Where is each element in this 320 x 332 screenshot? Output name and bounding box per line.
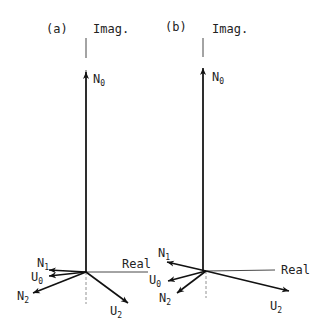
panel-b-real-axis	[206, 270, 275, 271]
panel-b: (b) Imag. Real N0 N1 U0 N2 U2	[149, 20, 310, 315]
panel-b-vector-u2	[206, 271, 289, 291]
panel-a: (a) Imag. Real N0 N1 U0 N2 U2	[17, 22, 151, 320]
panel-b-label-n2: N2	[159, 291, 171, 307]
panel-b-label-u2: U2	[270, 299, 282, 315]
panel-a-label-u2: U2	[110, 304, 122, 320]
panel-a-real-label: Real	[122, 257, 151, 271]
panel-b-label-n1: N1	[158, 246, 170, 262]
panel-b-vector-n1	[167, 262, 206, 271]
panel-b-imag-label: Imag.	[212, 22, 248, 36]
panel-b-label-n0: N0	[212, 70, 224, 86]
panel-a-label-n2: N2	[17, 289, 29, 305]
panel-b-tag: (b)	[165, 20, 187, 34]
panel-a-tag: (a)	[46, 22, 68, 36]
panel-a-vector-n1	[49, 270, 86, 272]
panel-a-label-n1: N1	[37, 256, 49, 272]
panel-b-label-u0: U0	[149, 273, 161, 289]
panel-a-label-n0: N0	[93, 72, 105, 88]
panel-a-vector-u2	[86, 272, 128, 303]
panel-b-real-label: Real	[281, 263, 310, 277]
panel-a-label-u0: U0	[31, 270, 43, 286]
phasor-diagram: (a) Imag. Real N0 N1 U0 N2 U2 (b) Imag.	[0, 0, 320, 332]
panel-a-imag-label: Imag.	[93, 22, 129, 36]
